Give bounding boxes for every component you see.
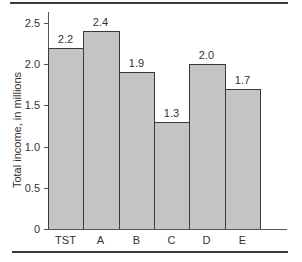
bar-a — [83, 31, 120, 229]
x-axis — [48, 229, 287, 230]
y-tick-label: 1.5 — [4, 99, 40, 111]
top-rule — [10, 2, 288, 4]
bar-value-label: 1.7 — [225, 74, 260, 86]
x-category-label: C — [154, 234, 189, 246]
bar-value-label: 2.4 — [83, 16, 118, 28]
bar-d — [189, 64, 226, 229]
bar-value-label: 1.9 — [119, 57, 154, 69]
bar-value-label: 2.0 — [189, 49, 224, 61]
bottom-rule — [12, 251, 288, 253]
x-category-label: B — [119, 234, 154, 246]
bar-value-label: 1.3 — [154, 107, 189, 119]
y-tick-label: 2.0 — [4, 58, 40, 70]
x-category-label: TST — [48, 234, 83, 246]
bar-c — [154, 122, 190, 229]
bar-b — [119, 72, 155, 229]
bar-e — [225, 89, 261, 229]
y-axis-label: Total income, in millions — [11, 72, 23, 188]
x-category-label: E — [225, 234, 260, 246]
bar-value-label: 2.2 — [48, 33, 83, 45]
bar-tst — [48, 48, 84, 229]
y-tick-label: 0 — [4, 223, 40, 235]
y-tick-label: 1.0 — [4, 141, 40, 153]
x-category-label: A — [83, 234, 118, 246]
y-tick — [44, 23, 48, 24]
y-tick-label: 2.5 — [4, 17, 40, 29]
x-category-label: D — [189, 234, 224, 246]
y-tick-label: 0.5 — [4, 182, 40, 194]
